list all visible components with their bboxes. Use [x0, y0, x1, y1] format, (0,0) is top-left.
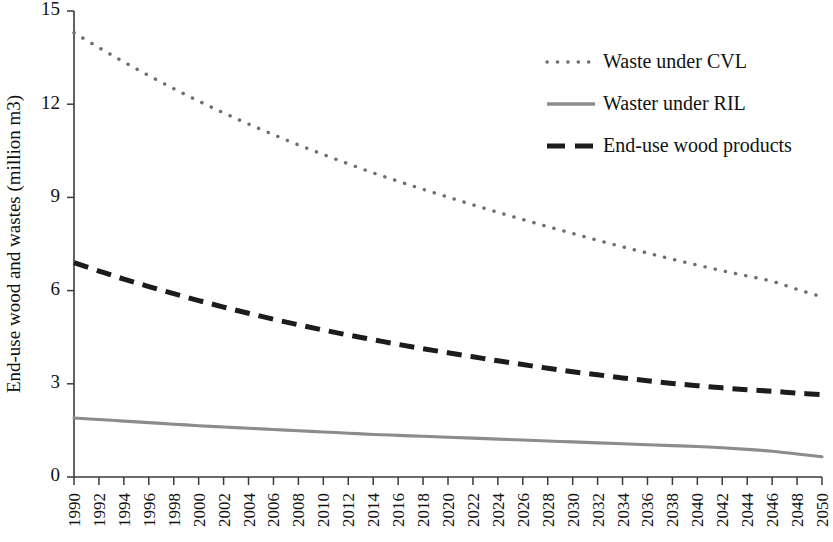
x-tick-label: 2048: [788, 493, 807, 527]
y-axis-title: End-use wood and wastes (million m3): [3, 95, 25, 393]
x-tick-label: 2030: [564, 493, 583, 527]
x-tick-label: 1994: [115, 493, 134, 528]
y-tick-label: 15: [41, 0, 60, 19]
x-tick-label: 2010: [314, 493, 333, 527]
x-axis-group: 1990199219941996199820002002200420062008…: [65, 477, 832, 527]
y-tick-label: 0: [51, 464, 61, 485]
series-line-waste-under-cvl: [74, 33, 822, 297]
legend-label: Waster under RIL: [603, 92, 746, 114]
x-tick-label: 2016: [389, 493, 408, 527]
x-tick-label: 2006: [264, 493, 283, 527]
x-tick-label: 2008: [289, 493, 308, 527]
x-tick-label: 2038: [663, 493, 682, 527]
x-axis-tick-labels: 1990199219941996199820002002200420062008…: [65, 493, 832, 528]
chart-legend: Waste under CVLWaster under RILEnd-use w…: [547, 50, 792, 157]
y-tick-label: 6: [51, 278, 61, 299]
x-tick-label: 2012: [339, 493, 358, 527]
legend-item[interactable]: Waste under CVL: [547, 50, 747, 72]
y-axis-tick-labels: 03691215: [41, 0, 60, 485]
x-tick-label: 1998: [165, 493, 184, 527]
legend-label: Waste under CVL: [603, 50, 747, 72]
x-axis-ticks: [74, 477, 822, 485]
x-tick-label: 1992: [90, 493, 109, 527]
x-tick-label: 2040: [688, 493, 707, 527]
x-tick-label: 1990: [65, 493, 84, 527]
x-tick-label: 2020: [439, 493, 458, 527]
line-chart-svg: 03691215 1990199219941996199820002002200…: [0, 0, 833, 542]
x-tick-label: 2028: [539, 493, 558, 527]
y-axis-ticks: [67, 11, 74, 477]
x-tick-label: 2032: [589, 493, 608, 527]
x-tick-label: 2024: [489, 493, 508, 528]
x-tick-label: 2004: [240, 493, 259, 528]
series-line-end-use-wood-products: [74, 263, 822, 395]
legend-item[interactable]: End-use wood products: [547, 134, 792, 157]
x-tick-label: 1996: [140, 493, 159, 527]
x-tick-label: 2000: [190, 493, 209, 527]
legend-item[interactable]: Waster under RIL: [547, 92, 746, 114]
x-tick-label: 2018: [414, 493, 433, 527]
x-tick-label: 2042: [713, 493, 732, 527]
x-tick-label: 2026: [514, 493, 533, 527]
x-tick-label: 2036: [638, 493, 657, 527]
x-tick-label: 2044: [738, 493, 757, 528]
y-tick-label: 12: [41, 92, 60, 113]
x-tick-label: 2014: [364, 493, 383, 528]
y-tick-label: 3: [51, 371, 61, 392]
x-tick-label: 2034: [614, 493, 633, 528]
legend-label: End-use wood products: [603, 134, 792, 157]
y-tick-label: 9: [51, 185, 61, 206]
y-axis-group: 03691215: [41, 0, 74, 485]
series-line-waster-under-ril: [74, 418, 822, 457]
x-tick-label: 2022: [464, 493, 483, 527]
chart-figure: 03691215 1990199219941996199820002002200…: [0, 0, 833, 542]
x-tick-label: 2050: [813, 493, 832, 527]
x-tick-label: 2002: [215, 493, 234, 527]
x-tick-label: 2046: [763, 493, 782, 527]
